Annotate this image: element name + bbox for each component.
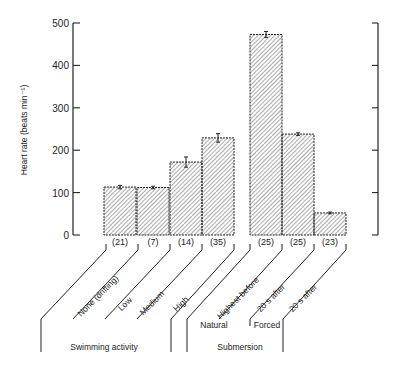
y-tick-label: 0: [63, 230, 69, 241]
bar: [170, 162, 202, 235]
sample-size: (14): [178, 237, 194, 247]
bar: [137, 188, 169, 235]
y-tick-label: 300: [52, 103, 69, 114]
heart-rate-bar-chart: 0100200300400500Heart rate (beats min⁻¹)…: [0, 0, 397, 371]
leader-line: [187, 250, 250, 319]
bars: [104, 31, 346, 235]
sample-size: (7): [148, 237, 159, 247]
y-tick-label: 200: [52, 145, 69, 156]
sample-size: (25): [258, 237, 274, 247]
sample-size: (25): [290, 237, 306, 247]
category-label: None (drifting): [75, 273, 120, 318]
category-label: 20 s after: [255, 282, 287, 314]
sample-size: (21): [112, 237, 128, 247]
category-label: Medium: [138, 289, 166, 317]
category-labels: (21)(7)(14)(35)(25)(25)(23)None (driftin…: [41, 237, 346, 352]
category-label: Low: [116, 294, 135, 313]
y-tick-label: 500: [52, 18, 69, 29]
group-label: Submersion: [217, 342, 263, 352]
bar: [314, 213, 346, 235]
subgroup-label: Natural: [200, 320, 228, 330]
bar: [282, 134, 314, 235]
subgroup-label: Forced: [254, 320, 281, 330]
y-tick-label: 100: [52, 188, 69, 199]
y-tick-label: 400: [52, 60, 69, 71]
group-label: Swimming activity: [70, 342, 138, 352]
sample-size: (23): [322, 237, 338, 247]
category-label: High: [171, 294, 191, 314]
bar: [250, 34, 282, 235]
y-axis-title: Heart rate (beats min⁻¹): [19, 85, 29, 176]
bar: [202, 138, 234, 235]
sample-size: (35): [210, 237, 226, 247]
leader-line: [41, 250, 106, 319]
bar: [104, 187, 136, 235]
category-label: 20 s after: [287, 282, 319, 314]
